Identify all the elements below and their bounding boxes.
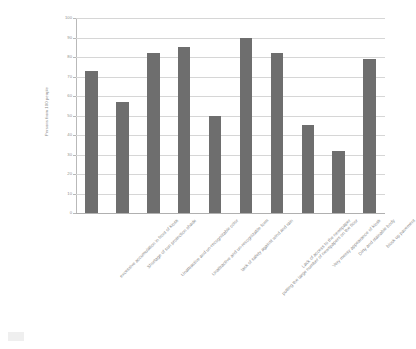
y-tick-mark <box>73 116 76 117</box>
y-tick-mark <box>73 155 76 156</box>
y-tick-mark <box>73 18 76 19</box>
bar <box>147 53 160 213</box>
y-tick-value: 90 <box>46 36 72 40</box>
y-tick-mark <box>73 77 76 78</box>
bar <box>271 53 284 213</box>
bar <box>240 38 253 214</box>
x-axis-label: putting the large number of newspapers o… <box>281 218 359 296</box>
bar <box>302 125 315 213</box>
bar <box>178 47 191 213</box>
y-tick-mark <box>73 135 76 136</box>
y-tick-mark <box>73 38 76 39</box>
x-axis-label: Lack of access to the newspaper <box>300 218 351 269</box>
corner-artifact <box>8 332 24 341</box>
y-tick-value: 80 <box>46 55 72 59</box>
y-tick-value: 50 <box>46 114 72 118</box>
y-tick-value: 70 <box>46 75 72 79</box>
gridline <box>76 38 385 39</box>
bar <box>332 151 345 213</box>
y-tick-value: 60 <box>46 94 72 98</box>
bar <box>116 102 129 213</box>
y-tick-mark <box>73 194 76 195</box>
y-tick-mark <box>73 96 76 97</box>
y-tick-mark <box>73 174 76 175</box>
plot-area <box>76 18 385 213</box>
bar <box>85 71 98 213</box>
y-tick-value: 40 <box>46 133 72 137</box>
y-tick-value: 100 <box>46 16 72 20</box>
y-axis-title: Persons from 100 people <box>44 57 49 167</box>
y-tick-value: 0 <box>46 211 72 215</box>
y-tick-value: 20 <box>46 172 72 176</box>
gridline <box>76 18 385 19</box>
x-axis-label: lack of safety against wind and rain <box>240 218 294 272</box>
y-tick-mark <box>73 57 76 58</box>
y-tick-mark <box>73 213 76 214</box>
gridline <box>76 77 385 78</box>
bar <box>209 116 222 214</box>
gridline <box>76 96 385 97</box>
y-tick-value: 30 <box>46 153 72 157</box>
gridline <box>76 213 385 214</box>
gridline <box>76 57 385 58</box>
y-tick-value: 10 <box>46 192 72 196</box>
bar <box>363 59 376 213</box>
